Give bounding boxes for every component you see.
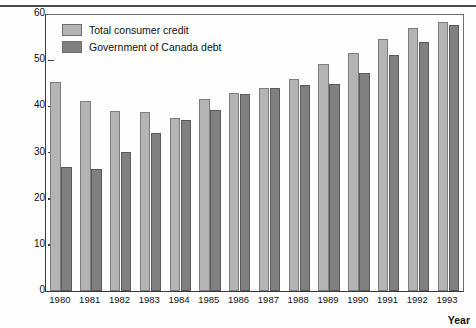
x-tick-label-1980: 1980 <box>45 294 75 305</box>
bar-1983-consumer-credit <box>140 112 150 291</box>
x-tick-label-1985: 1985 <box>194 294 224 305</box>
legend-label: Total consumer credit <box>89 24 189 36</box>
x-tick-label-1991: 1991 <box>373 294 403 305</box>
bar-group-1987 <box>259 14 280 291</box>
x-tick-label-1986: 1986 <box>224 294 254 305</box>
x-tick-label-1984: 1984 <box>164 294 194 305</box>
legend-item-government-debt: Government of Canada debt <box>62 40 222 53</box>
bar-group-1986 <box>229 14 250 291</box>
bar-1984-consumer-credit <box>170 118 180 291</box>
top-divider-rule <box>0 5 476 7</box>
bar-1987-government-debt <box>270 88 280 291</box>
bar-1989-consumer-credit <box>318 64 328 291</box>
bar-1992-consumer-credit <box>408 28 418 291</box>
bar-1986-consumer-credit <box>229 93 239 291</box>
bar-1990-government-debt <box>359 73 369 291</box>
x-tick-label-1989: 1989 <box>313 294 343 305</box>
bar-1992-government-debt <box>419 42 429 291</box>
bar-1985-government-debt <box>210 110 220 291</box>
x-tick-label-1983: 1983 <box>134 294 164 305</box>
x-tick-label-1982: 1982 <box>105 294 135 305</box>
x-tick-label-1988: 1988 <box>283 294 313 305</box>
bar-group-1988 <box>289 14 310 291</box>
legend-item-consumer-credit: Total consumer credit <box>62 23 222 36</box>
bar-group-1990 <box>348 14 369 291</box>
bar-1988-government-debt <box>300 85 310 291</box>
x-tick-label-1993: 1993 <box>432 294 462 305</box>
bar-1987-consumer-credit <box>259 88 269 291</box>
x-tick-label-1992: 1992 <box>402 294 432 305</box>
bar-group-1989 <box>318 14 339 291</box>
bar-1982-consumer-credit <box>110 111 120 291</box>
bar-1980-government-debt <box>61 167 71 291</box>
bar-1991-government-debt <box>389 55 399 291</box>
figure-container: Debt (percentage of GDP) 0102030405060 1… <box>0 0 476 328</box>
x-axis-tick-labels: 1980198119821983198419851986198719881989… <box>45 294 462 310</box>
x-tick-label-1990: 1990 <box>343 294 373 305</box>
y-tick-label: 20 <box>34 192 45 203</box>
legend-label: Government of Canada debt <box>89 41 222 53</box>
bar-group-1993 <box>438 14 459 291</box>
bar-1990-consumer-credit <box>348 53 358 291</box>
bar-group-1991 <box>378 14 399 291</box>
legend-swatch-icon <box>62 41 82 53</box>
bar-1991-consumer-credit <box>378 39 388 291</box>
bar-1981-consumer-credit <box>80 101 90 291</box>
bar-1993-consumer-credit <box>438 22 448 291</box>
bar-1984-government-debt <box>181 120 191 291</box>
bar-1982-government-debt <box>121 152 131 291</box>
bar-1986-government-debt <box>240 94 250 291</box>
y-tick-label: 50 <box>34 53 45 64</box>
bar-1981-government-debt <box>91 169 101 291</box>
chart-legend: Total consumer creditGovernment of Canad… <box>62 23 222 57</box>
bar-1989-government-debt <box>329 84 339 291</box>
bar-group-1992 <box>408 14 429 291</box>
y-tick-label: 10 <box>34 238 45 249</box>
y-tick-label: 40 <box>34 99 45 110</box>
y-tick-label: 30 <box>34 146 45 157</box>
bar-1980-consumer-credit <box>50 82 60 291</box>
y-tick-label: 60 <box>34 7 45 18</box>
x-axis-title: Year <box>448 314 470 326</box>
bar-1988-consumer-credit <box>289 79 299 291</box>
legend-swatch-icon <box>62 24 82 36</box>
bar-1993-government-debt <box>449 25 459 291</box>
bar-1985-consumer-credit <box>199 99 209 291</box>
bar-1983-government-debt <box>151 133 161 291</box>
x-tick-label-1987: 1987 <box>254 294 284 305</box>
x-tick-label-1981: 1981 <box>75 294 105 305</box>
